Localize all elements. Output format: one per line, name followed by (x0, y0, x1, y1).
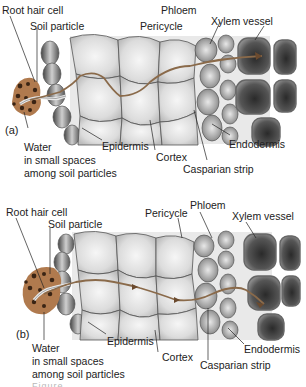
label-epidermis: Epidermis (102, 140, 149, 152)
label-soil-particle: Soil particle (30, 20, 84, 32)
cortex-cells (74, 231, 198, 340)
label-endodermis: Endodermis (229, 138, 285, 150)
label-water-line1: Water (32, 342, 60, 354)
label-root-hair-cell: Root hair cell (2, 4, 63, 16)
label-phloem: Phloem (161, 4, 197, 16)
label-casparian-strip: Casparian strip (200, 359, 271, 371)
label-water-line3: among soil particles (24, 167, 117, 179)
label-xylem-vessel: Xylem vessel (232, 210, 294, 222)
cortex-cells (70, 34, 198, 145)
panel-tag-a: (a) (5, 124, 18, 136)
label-cortex: Cortex (156, 151, 187, 163)
label-root-hair-cell: Root hair cell (6, 206, 67, 218)
label-casparian-strip: Casparian strip (183, 163, 254, 175)
figure-caption: Figure … (32, 381, 292, 387)
label-phloem: Phloem (190, 199, 226, 211)
label-water-line2: in small spaces (24, 154, 96, 166)
panel-a: Root hair cell Soil particle Pericycle P… (0, 0, 306, 190)
label-pericycle: Pericycle (140, 20, 183, 32)
label-pericycle: Pericycle (145, 207, 188, 219)
panel-tag-b: (b) (16, 328, 29, 340)
label-soil-particle: Soil particle (48, 218, 102, 230)
label-endodermis: Endodermis (244, 343, 300, 355)
label-water-line1: Water (24, 141, 52, 153)
label-cortex: Cortex (162, 351, 193, 363)
label-epidermis: Epidermis (107, 335, 154, 347)
panel-b: Root hair cell Soil particle Pericycle P… (0, 190, 306, 386)
label-xylem-vessel: Xylem vessel (211, 15, 273, 27)
label-water-line3: among soil particles (32, 368, 125, 380)
label-water-line2: in small spaces (32, 355, 104, 367)
